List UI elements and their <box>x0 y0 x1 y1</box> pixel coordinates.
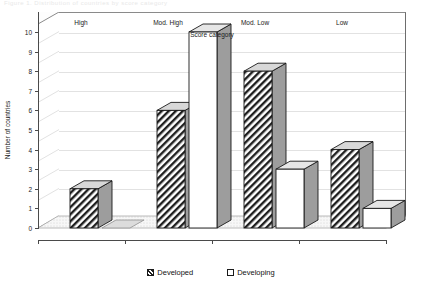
y-tick: 3 <box>35 169 39 170</box>
x-tick-label-high: High <box>74 19 87 26</box>
y-axis-title: Number of countries <box>4 101 11 160</box>
y-tick: 6 <box>35 110 39 111</box>
y-tick-label: 3 <box>28 166 32 173</box>
y-tick: 4 <box>35 150 39 151</box>
x-tick <box>38 240 39 244</box>
y-tick: 10 <box>35 32 39 33</box>
chart-left-wall <box>38 12 59 228</box>
x-axis-title: Score category <box>190 31 234 38</box>
chart-legend: Developed Developing <box>0 268 422 277</box>
white-square-icon <box>227 269 234 276</box>
y-tick-label: 5 <box>28 127 32 134</box>
legend-label: Developing <box>237 268 275 277</box>
y-tick: 9 <box>35 52 39 53</box>
y-tick-label: 6 <box>28 107 32 114</box>
y-tick: 0 <box>35 228 39 229</box>
plot-area: 0 1 2 3 4 5 6 7 8 9 10 Number of countri… <box>38 12 406 240</box>
x-tick-label-low: Low <box>336 19 348 26</box>
y-tick: 2 <box>35 189 39 190</box>
y-tick-label: 2 <box>28 185 32 192</box>
bar-developing-mod-low <box>272 12 332 228</box>
x-tick <box>299 240 300 244</box>
y-tick: 1 <box>35 208 39 209</box>
bar-developing-high <box>98 12 158 228</box>
y-axis <box>38 12 39 228</box>
y-tick: 8 <box>35 71 39 72</box>
hatched-square-icon <box>147 269 154 276</box>
y-tick: 5 <box>35 130 39 131</box>
x-tick-label-mod-high: Mod. High <box>153 19 183 26</box>
y-tick-label: 9 <box>28 48 32 55</box>
y-tick-label: 1 <box>28 205 32 212</box>
y-tick: 7 <box>35 91 39 92</box>
bar-developing-low <box>359 12 419 228</box>
x-tick <box>386 240 387 244</box>
x-tick-label-mod-low: Mod. Low <box>241 19 269 26</box>
x-tick <box>125 240 126 244</box>
bar-developing-mod-high <box>185 12 245 228</box>
y-tick-label: 8 <box>28 68 32 75</box>
legend-item-developed[interactable]: Developed <box>147 268 193 277</box>
legend-item-developing[interactable]: Developing <box>227 268 275 277</box>
chart-figure: Figure 1. Distribution of countries by s… <box>0 0 422 287</box>
x-tick <box>212 240 213 244</box>
y-tick-label: 4 <box>28 146 32 153</box>
y-tick-label: 7 <box>28 87 32 94</box>
y-tick-label: 0 <box>28 225 32 232</box>
y-tick-label: 10 <box>25 29 32 36</box>
legend-label: Developed <box>157 268 193 277</box>
figure-caption-top: Figure 1. Distribution of countries by s… <box>4 0 168 6</box>
